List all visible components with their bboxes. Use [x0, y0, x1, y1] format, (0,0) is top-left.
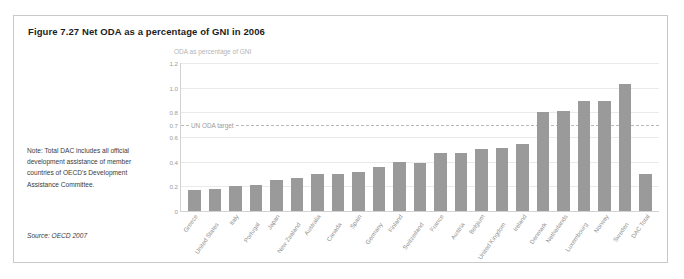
- bar[interactable]: [250, 185, 263, 211]
- x-label-slot: Luxembourg: [573, 212, 594, 256]
- x-axis-label: Portugal: [242, 221, 261, 244]
- bar-slot: [184, 63, 205, 211]
- x-axis-label: Ireland: [511, 213, 527, 232]
- bar[interactable]: [434, 153, 447, 211]
- x-label-slot: United States: [204, 212, 225, 256]
- x-label-slot: Austria: [450, 212, 471, 256]
- bar[interactable]: [332, 174, 345, 211]
- x-label-slot: Australia: [306, 212, 327, 256]
- bar-slot: [451, 63, 472, 211]
- figure-source: Source: OECD 2007: [27, 232, 87, 239]
- y-axis-tick: 0.7: [169, 121, 178, 128]
- y-axis-title: ODA as percentage of GNI: [174, 48, 251, 55]
- bar-slot: [594, 63, 615, 211]
- chart-area: ODA as percentage of GNI 00.20.40.60.70.…: [156, 48, 661, 256]
- plot-region: 00.20.40.60.70.81.01.2 UN ODA target: [180, 63, 659, 212]
- x-label-slot: Italy: [224, 212, 245, 256]
- bar-slot: [615, 63, 636, 211]
- figure-note: Note: Total DAC includes all official de…: [27, 145, 151, 190]
- bar-slot: [492, 63, 513, 211]
- bar[interactable]: [475, 149, 488, 211]
- bar[interactable]: [537, 112, 550, 211]
- bar[interactable]: [639, 174, 652, 211]
- x-label-slot: Canada: [327, 212, 348, 256]
- bar[interactable]: [516, 144, 529, 211]
- y-axis-tick: 1.2: [169, 60, 178, 67]
- x-axis-labels: GreeceUnited StatesItalyPortugalJapanNew…: [180, 212, 658, 256]
- x-label-slot: DAC Total: [634, 212, 655, 256]
- bar-slot: [246, 63, 267, 211]
- bar-slot: [287, 63, 308, 211]
- page-title: Figure 7.27 Net ODA as a percentage of G…: [28, 26, 265, 37]
- x-axis-label: Greece: [182, 213, 199, 233]
- bar[interactable]: [598, 101, 611, 211]
- x-axis-label: Canada: [325, 221, 343, 243]
- x-axis-label: Austria: [449, 221, 466, 241]
- bar[interactable]: [352, 172, 365, 211]
- x-label-slot: Norway: [593, 212, 614, 256]
- x-label-slot: United Kingdom: [491, 212, 512, 256]
- bar-slot: [205, 63, 226, 211]
- x-label-slot: Germany: [368, 212, 389, 256]
- bar[interactable]: [373, 167, 386, 211]
- y-axis-tick: 0.2: [169, 183, 178, 190]
- bar[interactable]: [291, 178, 304, 211]
- bar[interactable]: [557, 111, 570, 211]
- bar-slot: [635, 63, 656, 211]
- bar[interactable]: [311, 174, 324, 211]
- bar-slot: [225, 63, 246, 211]
- y-axis-tick: 0: [175, 208, 178, 215]
- bar-slot: [369, 63, 390, 211]
- bar[interactable]: [619, 84, 632, 211]
- bar-slot: [410, 63, 431, 211]
- bar-slot: [430, 63, 451, 211]
- x-axis-label: Italy: [228, 213, 240, 226]
- bar[interactable]: [209, 189, 222, 211]
- bar[interactable]: [229, 186, 242, 211]
- bar-slot: [471, 63, 492, 211]
- bar[interactable]: [188, 190, 201, 211]
- bar[interactable]: [578, 101, 591, 211]
- x-axis-label: Norway: [592, 213, 610, 234]
- bar-slot: [307, 63, 328, 211]
- x-axis-label: France: [429, 213, 446, 233]
- bar[interactable]: [496, 148, 509, 211]
- x-label-slot: Switzerland: [409, 212, 430, 256]
- figure-container: Figure 7.27 Net ODA as a percentage of G…: [13, 15, 668, 263]
- bar-slot: [533, 63, 554, 211]
- bar-series: [181, 63, 659, 211]
- x-label-slot: France: [429, 212, 450, 256]
- y-axis-tick: 0.6: [169, 134, 178, 141]
- bar-slot: [328, 63, 349, 211]
- x-axis-label: Japan: [266, 213, 281, 231]
- bar-slot: [266, 63, 287, 211]
- x-axis-label: Finland: [387, 213, 404, 233]
- x-axis-label: Denmark: [528, 221, 548, 245]
- y-axis-tick: 1.0: [169, 84, 178, 91]
- bar-slot: [553, 63, 574, 211]
- bar-slot: [389, 63, 410, 211]
- x-axis-label: Sweden: [611, 221, 629, 243]
- x-label-slot: Portugal: [245, 212, 266, 256]
- x-label-slot: Ireland: [511, 212, 532, 256]
- x-label-slot: New Zealand: [286, 212, 307, 256]
- y-axis-tick: 0.4: [169, 158, 178, 165]
- bar-slot: [512, 63, 533, 211]
- bar[interactable]: [414, 163, 427, 211]
- x-axis-label: Spain: [348, 213, 363, 230]
- x-axis-label: Belgium: [468, 213, 486, 235]
- bar-slot: [574, 63, 595, 211]
- bar[interactable]: [393, 162, 406, 211]
- bar[interactable]: [455, 153, 468, 211]
- bar-slot: [348, 63, 369, 211]
- bar[interactable]: [270, 180, 283, 211]
- x-label-slot: Spain: [347, 212, 368, 256]
- x-axis-label: Australia: [303, 213, 322, 236]
- y-axis-tick: 0.8: [169, 109, 178, 116]
